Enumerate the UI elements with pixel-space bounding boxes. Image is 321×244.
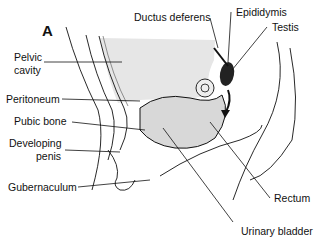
label-pelvic-cavity-2: cavity	[14, 65, 41, 76]
label-rectum: Rectum	[274, 193, 310, 204]
panel-label: A	[42, 22, 53, 39]
label-gubernaculum: Gubernaculum	[8, 182, 77, 193]
label-peritoneum: Peritoneum	[6, 94, 60, 105]
label-developing-penis-1: Developing	[9, 138, 62, 149]
label-pelvic-cavity-1: Pelvic	[14, 52, 42, 63]
diagram-canvas: A Ductus deferens Epididymis Testis Pelv…	[0, 0, 321, 244]
label-epididymis: Epididymis	[236, 7, 287, 18]
label-ductus-deferens: Ductus deferens	[134, 12, 210, 23]
label-urinary-bladder: Urinary bladder	[241, 226, 313, 237]
label-pubic-bone: Pubic bone	[14, 116, 67, 127]
label-testis: Testis	[272, 22, 299, 33]
label-developing-penis-2: penis	[36, 151, 61, 162]
